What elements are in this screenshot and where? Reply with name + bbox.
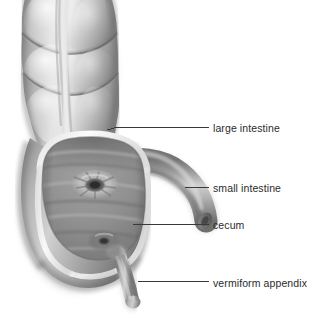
anatomy-illustration [0, 0, 314, 320]
label-vermiform-appendix: vermiform appendix [213, 277, 307, 289]
label-large-intestine: large intestine [213, 122, 280, 134]
label-cecum: cecum [213, 219, 244, 231]
cecum [21, 128, 160, 288]
leader-line-large-intestine [107, 127, 209, 130]
anatomy-figure: large intestine small intestine cecum ve… [0, 0, 314, 320]
label-small-intestine: small intestine [213, 182, 281, 194]
ileocecal-orifice [71, 170, 119, 200]
ascending-colon [21, 0, 119, 148]
